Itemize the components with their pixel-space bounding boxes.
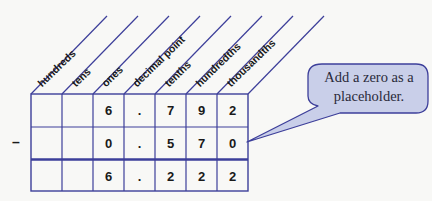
cell: 2 xyxy=(186,170,217,183)
cell: 2 xyxy=(155,170,186,183)
place-value-diagram: hundreds tens ones decimal point tenths … xyxy=(0,0,432,201)
cell: 7 xyxy=(186,137,217,150)
cell: 5 xyxy=(155,137,186,150)
cell: 2 xyxy=(217,170,248,183)
cell: 7 xyxy=(155,104,186,117)
cell: 0 xyxy=(93,137,124,150)
cell: . xyxy=(124,104,155,117)
cell: . xyxy=(124,137,155,150)
cell: 2 xyxy=(217,104,248,117)
callout-line-2: placeholder. xyxy=(310,87,428,106)
cell: 9 xyxy=(186,104,217,117)
callout-text: Add a zero as a placeholder. xyxy=(310,68,428,106)
cell: 6 xyxy=(93,170,124,183)
cell: 6 xyxy=(93,104,124,117)
cell: . xyxy=(124,170,155,183)
callout-line-1: Add a zero as a xyxy=(310,68,428,87)
minus-operator: – xyxy=(12,134,20,150)
placeholder-zero-cell: 0 xyxy=(217,137,248,150)
